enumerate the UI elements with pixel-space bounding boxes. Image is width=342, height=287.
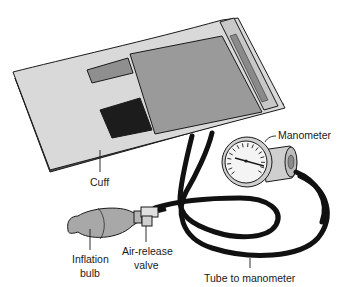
- inflation-bulb: [68, 208, 142, 239]
- label-cuff-text: Cuff: [90, 176, 109, 188]
- label-inflation-bulb-line1: Inflation: [72, 253, 109, 265]
- manometer: [222, 137, 297, 187]
- label-air-release-valve-line1: Air-release: [122, 245, 173, 257]
- label-tube: Tube to manometer: [204, 258, 296, 284]
- label-manometer: Manometer: [265, 129, 332, 142]
- tube-to-manometer: [296, 172, 324, 222]
- label-tube-text: Tube to manometer: [204, 272, 296, 284]
- label-air-release-valve-line2: valve: [134, 259, 159, 271]
- air-release-valve: [141, 207, 166, 226]
- label-inflation-bulb-line2: bulb: [80, 267, 100, 279]
- manometer-needle-hub: [244, 159, 247, 162]
- label-manometer-text: Manometer: [278, 129, 332, 141]
- label-air-release-valve: Air-release valve: [122, 226, 173, 271]
- sphygmomanometer-diagram: Cuff Manometer Inflation bulb Air-releas…: [0, 0, 342, 287]
